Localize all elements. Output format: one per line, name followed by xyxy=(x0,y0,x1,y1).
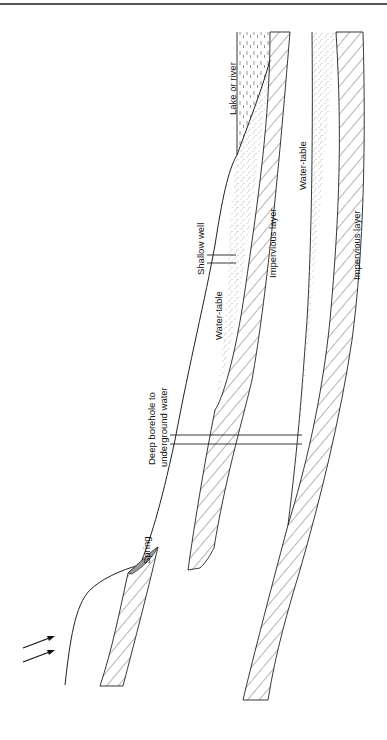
label-borehole-line1: Deep borehole to xyxy=(146,392,157,465)
label-spring: Spring xyxy=(141,537,152,564)
cross-section-diagram: Lake or river Water-table Impervious lay… xyxy=(0,0,387,740)
label-water-table-lower: Water-table xyxy=(297,141,308,190)
label-water-table-upper: Water-table xyxy=(213,291,224,340)
label-lake: Lake or river xyxy=(227,62,238,115)
label-impervious-lower: Impervious layer xyxy=(351,210,362,280)
rain-arrows-icon xyxy=(23,636,55,662)
label-borehole-line2: underground water xyxy=(158,387,169,467)
label-impervious-upper: Impervious layer xyxy=(267,208,278,278)
label-shallow-well: Shallow well xyxy=(195,223,206,275)
